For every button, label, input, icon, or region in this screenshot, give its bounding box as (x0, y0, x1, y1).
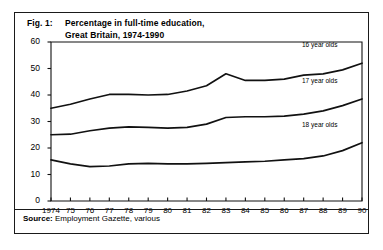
source-note: Source: Employment Gazette, various (23, 214, 160, 223)
source-divider (15, 209, 368, 210)
y-axis-tick-label: 0 (20, 195, 40, 205)
figure-frame: Fig. 1: Percentage in full-time educatio… (14, 12, 369, 234)
y-axis-tick-label: 40 (20, 89, 40, 99)
y-axis-tick-label: 60 (20, 36, 40, 46)
y-axis-tick-label: 10 (20, 169, 40, 179)
source-key: Source: (23, 214, 53, 223)
y-axis-tick-label: 50 (20, 63, 40, 73)
source-value: Employment Gazette, various (53, 214, 160, 223)
series-label-1: 16 year olds (302, 41, 337, 48)
x-axis-tick-label: 90 (349, 206, 375, 215)
y-axis-tick-label: 20 (20, 142, 40, 152)
y-axis-tick-label: 30 (20, 116, 40, 126)
series-label-3: 18 year olds (302, 121, 337, 128)
series-label-2: 17 year olds (302, 77, 337, 84)
